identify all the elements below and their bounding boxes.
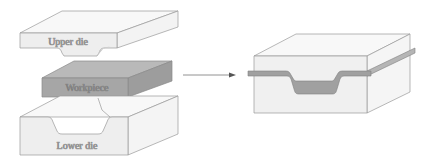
workpiece-label: Workpiece [65,82,109,93]
lower-die-label: Lower die [57,140,98,151]
upper-die: Upper die [20,11,178,56]
forging-diagram: Upper die Workpiece Lower die [0,0,429,163]
workpiece: Workpiece [42,61,172,97]
lower-die: Lower die [20,96,178,155]
upper-die-label: Upper die [48,36,88,47]
process-arrow [183,73,236,78]
